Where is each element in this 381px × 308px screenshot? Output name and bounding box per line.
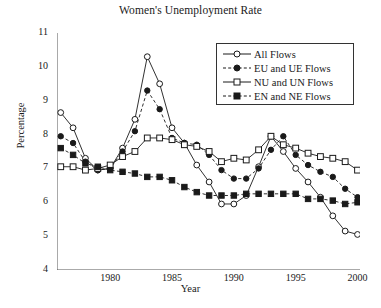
data-point	[305, 150, 311, 156]
data-point	[107, 167, 112, 172]
data-point	[355, 200, 360, 205]
data-point	[70, 125, 76, 131]
data-point	[144, 135, 150, 141]
y-tick-label: 11	[22, 26, 48, 37]
data-point	[342, 186, 347, 191]
data-point	[145, 88, 150, 93]
y-tick-label: 4	[22, 263, 48, 274]
data-point	[243, 157, 249, 163]
data-point	[169, 178, 174, 183]
data-point	[268, 133, 274, 139]
data-point	[206, 193, 211, 198]
data-point	[194, 144, 200, 150]
data-point	[330, 174, 335, 179]
data-point	[355, 167, 360, 173]
data-point	[144, 54, 150, 60]
data-point	[256, 191, 261, 196]
data-point	[231, 176, 236, 181]
x-axis-label: Year	[0, 283, 381, 294]
data-point	[182, 184, 187, 189]
y-tick-label: 10	[22, 60, 48, 71]
data-point	[355, 232, 360, 238]
data-point	[120, 154, 126, 160]
data-point	[256, 166, 261, 171]
data-point	[231, 193, 236, 198]
data-point	[219, 159, 225, 165]
data-point	[83, 167, 89, 173]
data-point	[132, 149, 138, 155]
data-point	[293, 191, 298, 196]
data-point	[231, 155, 237, 161]
data-point	[157, 81, 163, 87]
data-point	[293, 152, 298, 157]
data-point	[194, 189, 199, 194]
data-point	[194, 162, 200, 168]
series-nu-and-un-flows	[58, 133, 360, 173]
data-point	[58, 145, 63, 150]
data-point	[145, 174, 150, 179]
data-point	[120, 169, 125, 174]
legend-item[interactable]: EU and UE Flows	[222, 61, 348, 75]
data-point	[330, 155, 336, 161]
legend: All Flows EU and UE Flows NU and UN Flow…	[216, 43, 354, 105]
data-point	[268, 147, 273, 152]
legend-marker-eu-ue-flows	[222, 62, 252, 74]
legend-marker-en-ne-flows	[222, 90, 252, 102]
data-point	[342, 228, 348, 234]
legend-label: NU and UN Flows	[252, 77, 333, 88]
x-tick-label: 1995	[276, 272, 316, 283]
data-point	[244, 191, 249, 196]
data-point	[318, 169, 323, 174]
data-point	[58, 134, 63, 139]
chart-title: Women's Unemployment Rate	[0, 4, 381, 16]
x-tick-label: 1985	[152, 272, 192, 283]
data-point	[293, 166, 299, 172]
data-point	[318, 196, 323, 201]
data-point	[293, 145, 299, 151]
data-point	[132, 128, 137, 133]
y-tick-label: 6	[22, 195, 48, 206]
legend-marker-nu-un-flows	[222, 76, 252, 88]
legend-item[interactable]: NU and UN Flows	[222, 75, 348, 89]
data-point	[132, 116, 138, 122]
data-point	[157, 174, 162, 179]
data-point	[219, 167, 224, 172]
data-point	[244, 176, 249, 181]
data-point	[256, 147, 262, 153]
data-point	[181, 142, 187, 148]
x-tick-label: 2000	[338, 272, 378, 283]
data-point	[280, 142, 286, 148]
data-point	[305, 196, 310, 201]
chart-figure: Women's Unemployment Rate Percentage Yea…	[0, 0, 381, 308]
data-point	[70, 164, 76, 170]
data-point	[280, 149, 286, 155]
data-point	[58, 164, 64, 170]
data-point	[157, 135, 163, 141]
data-point	[70, 152, 75, 157]
data-point	[219, 193, 224, 198]
legend-label: All Flows	[252, 49, 296, 60]
data-point	[206, 179, 212, 185]
data-point	[281, 134, 286, 139]
data-point	[83, 161, 88, 166]
data-point	[342, 201, 347, 206]
legend-item[interactable]: All Flows	[222, 47, 348, 61]
data-point	[70, 140, 75, 145]
data-point	[58, 110, 64, 116]
y-tick-label: 8	[22, 128, 48, 139]
data-point	[342, 159, 348, 165]
data-point	[318, 154, 324, 160]
y-tick-label: 7	[22, 161, 48, 172]
data-point	[169, 125, 175, 131]
data-point	[169, 137, 175, 143]
data-point	[95, 164, 100, 169]
data-point	[157, 106, 162, 111]
legend-item[interactable]: EN and NE Flows	[222, 89, 348, 103]
legend-marker-all-flows	[222, 48, 252, 60]
data-point	[330, 198, 335, 203]
legend-label: EN and NE Flows	[252, 91, 331, 102]
x-tick-label: 1980	[90, 272, 130, 283]
data-point	[219, 201, 225, 207]
data-point	[231, 201, 237, 207]
data-point	[281, 191, 286, 196]
